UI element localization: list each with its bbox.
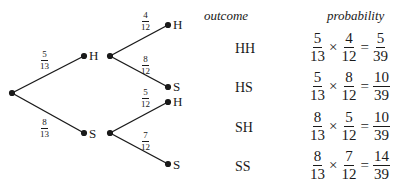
node-HS — [166, 85, 171, 90]
node-H-start — [108, 54, 113, 59]
node-label-HH: H — [173, 18, 182, 31]
outcome-SS: SS — [235, 159, 251, 175]
outcome-header: outcome — [204, 8, 248, 24]
node-HH — [166, 23, 171, 28]
outcome-SH: SH — [235, 120, 253, 136]
node-S-start — [108, 131, 113, 136]
branch-S-H — [110, 102, 168, 133]
probability-HS: 513 × 812 = 1039 — [310, 70, 390, 103]
branch-H-H — [110, 25, 168, 56]
probability-tree — [0, 0, 200, 189]
node-H — [82, 54, 87, 59]
probability-SH: 813 × 512 = 1039 — [310, 110, 390, 143]
node-SH — [166, 100, 171, 105]
node-label-SS: S — [173, 158, 180, 171]
branch-H-S — [110, 56, 168, 87]
branch-prob-root-S: 8 13 — [40, 118, 49, 139]
branch-prob-S-H: 5 12 — [141, 88, 150, 109]
node-label-S: S — [89, 127, 96, 140]
probability-HH: 513 × 412 = 539 — [310, 31, 388, 64]
node-label-H: H — [89, 49, 98, 62]
node-label-SH: H — [173, 95, 182, 108]
node-SS — [166, 162, 171, 167]
probability-SS: 813 × 712 = 1439 — [310, 149, 390, 182]
probability-header: probability — [327, 8, 384, 24]
branch-S-S — [110, 133, 168, 164]
node-S — [82, 131, 87, 136]
root-node — [10, 91, 15, 96]
outcome-HS: HS — [235, 80, 253, 96]
branch-prob-H-S: 8 12 — [141, 55, 150, 76]
outcome-HH: HH — [235, 41, 255, 57]
branch-prob-root-H: 5 13 — [40, 50, 49, 71]
node-label-HS: S — [173, 80, 180, 93]
branch-prob-H-H: 4 12 — [141, 11, 150, 32]
branch-prob-S-S: 7 12 — [141, 131, 150, 152]
